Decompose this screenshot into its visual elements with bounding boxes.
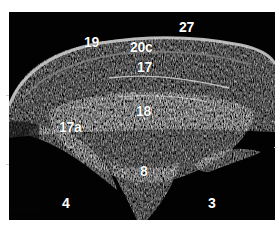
label-18: 18 [136,104,151,118]
label-17: 17 [137,60,152,74]
depth-tick-right [274,147,277,148]
label-19: 19 [84,35,99,49]
label-27: 27 [179,20,194,34]
label-4: 4 [62,196,70,210]
ultrasound-image: 27 19 20c 17 18 17a 8 4 3 [9,12,275,220]
label-3: 3 [208,196,216,210]
label-17a: 17a [59,120,81,134]
depth-tick-left [6,164,9,165]
depth-tick-left [6,95,9,96]
label-20c: 20c [130,40,152,54]
label-8: 8 [140,164,148,178]
